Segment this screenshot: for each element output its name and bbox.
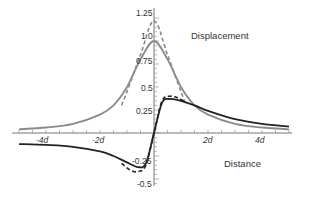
displacement-label: Displacement [191, 30, 249, 41]
y-tick-label-neg0-5: -0.5 [137, 179, 152, 189]
x-tick-label-4d: 4d [255, 135, 264, 145]
distance-label: Distance [224, 158, 261, 169]
x-tick-label-neg2d: -2d [92, 135, 104, 145]
y-tick-label-1-0: 1.0 [141, 31, 153, 41]
y-tick-label-0-5: 0.5 [141, 83, 153, 93]
y-tick-label-0-25: 0.25 [136, 106, 153, 116]
y-tick-label-0-75: 0.75 [136, 56, 153, 66]
x-tick-label-neg4d: -4d [36, 135, 48, 145]
x-tick-label-2d: 2d [203, 135, 212, 145]
y-tick-label-1-25: 1.25 [136, 8, 153, 18]
y-tick-label-neg0-25: -0.25 [132, 156, 151, 166]
